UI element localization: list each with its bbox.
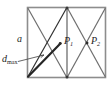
- label-point-p2: P2: [91, 36, 100, 47]
- label-point-p1: P1: [64, 36, 73, 47]
- node-crossing-p2: [86, 42, 89, 45]
- figure-container: a dmax P1 P2: [0, 0, 112, 87]
- node-bottom-mid: [66, 76, 69, 79]
- label-dmax-subscript: max: [7, 58, 18, 65]
- node-crossing-p1: [59, 42, 62, 45]
- label-p1-subscript: 1: [70, 40, 73, 47]
- node-top-mid: [66, 7, 69, 10]
- label-p2-subscript: 2: [97, 40, 100, 47]
- dmax-leader-line: [18, 55, 44, 62]
- label-dmax: dmax: [2, 54, 18, 65]
- label-side-a: a: [17, 34, 22, 44]
